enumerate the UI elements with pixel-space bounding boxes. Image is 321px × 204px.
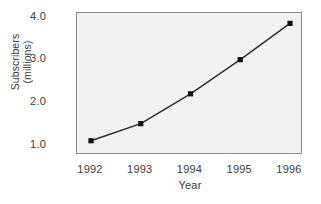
- y-axis-tick-label: 2.0: [6, 96, 46, 107]
- x-axis-title: Year: [140, 179, 240, 192]
- data-point-marker: [188, 91, 193, 96]
- y-axis-tick-label: 4.0: [6, 11, 46, 22]
- x-axis-tick-labels: 19921993199419951996: [0, 163, 321, 179]
- data-point-marker: [287, 21, 292, 26]
- y-axis-tick-label: 1.0: [6, 139, 46, 150]
- data-point-marker: [238, 57, 243, 62]
- data-point-markers: [88, 21, 292, 144]
- x-axis-tick-label: 1995: [214, 163, 264, 176]
- chart-figure: Subscribers (millions) 1.02.03.04.0 1992…: [0, 0, 321, 204]
- data-point-marker: [88, 138, 93, 143]
- data-line-series-subscribers: [91, 23, 290, 140]
- data-point-marker: [138, 121, 143, 126]
- x-axis-tick-label: 1996: [264, 163, 314, 176]
- x-axis-tick-label: 1992: [65, 163, 115, 176]
- plot-area: [76, 12, 302, 154]
- plot-svg: [77, 13, 303, 155]
- x-axis-tick-label: 1994: [165, 163, 215, 176]
- x-axis-tick-label: 1993: [115, 163, 165, 176]
- y-axis-tick-label: 3.0: [6, 53, 46, 64]
